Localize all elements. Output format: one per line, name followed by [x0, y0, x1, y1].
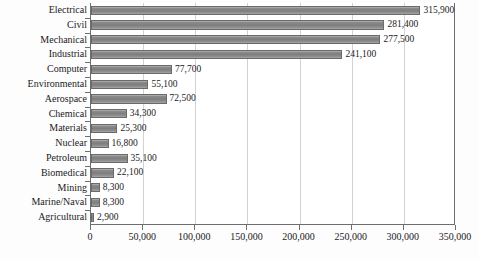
plot-area: 315,900281,400277,500241,10077,70055,100… [90, 3, 455, 225]
category-tick [85, 195, 90, 196]
value-tick [142, 225, 143, 230]
value-tick [455, 225, 456, 230]
category-label: Civil [0, 18, 87, 33]
bar [91, 168, 114, 177]
bar [91, 213, 94, 222]
value-tick [403, 225, 404, 230]
category-label: Marine/Naval [0, 195, 87, 210]
category-tick [85, 121, 90, 122]
bar-row: 55,100 [91, 77, 454, 92]
bar-row: 8,300 [91, 195, 454, 210]
category-label: Mining [0, 181, 87, 196]
bar-row: 241,100 [91, 47, 454, 62]
bar-value-label: 281,400 [387, 17, 418, 31]
category-label: Electrical [0, 3, 87, 18]
bar-value-label: 25,300 [120, 121, 146, 135]
bar-row: 25,300 [91, 121, 454, 136]
category-label: Mechanical [0, 33, 87, 48]
category-tick [85, 62, 90, 63]
category-label: Computer [0, 62, 87, 77]
category-label: Chemical [0, 107, 87, 122]
bar-value-label: 77,700 [175, 62, 201, 76]
bar [91, 20, 384, 29]
category-label: Biomedical [0, 166, 87, 181]
category-label: Aerospace [0, 92, 87, 107]
bar-row: 22,100 [91, 166, 454, 181]
bar-value-label: 22,100 [117, 165, 143, 179]
bar-chart: 315,900281,400277,500241,10077,70055,100… [0, 0, 478, 259]
bar-value-label: 8,300 [103, 195, 124, 209]
value-tick [351, 225, 352, 230]
category-tick [85, 166, 90, 167]
bar [91, 124, 117, 133]
category-label: Petroleum [0, 151, 87, 166]
category-tick [85, 47, 90, 48]
bar [91, 154, 128, 163]
bar [91, 50, 342, 59]
bar [91, 6, 420, 15]
category-label: Industrial [0, 47, 87, 62]
bar-value-label: 315,900 [423, 3, 454, 17]
bar-row: 281,400 [91, 18, 454, 33]
bar-value-label: 35,100 [131, 151, 157, 165]
category-tick [85, 136, 90, 137]
category-label: Environmental [0, 77, 87, 92]
value-tick [90, 225, 91, 230]
bar-value-label: 241,100 [345, 47, 376, 61]
category-tick [85, 151, 90, 152]
bar [91, 183, 100, 192]
category-label: Nuclear [0, 136, 87, 151]
category-tick [85, 210, 90, 211]
category-tick [85, 92, 90, 93]
category-tick [85, 18, 90, 19]
bar-value-label: 16,800 [112, 136, 138, 150]
category-tick [85, 107, 90, 108]
bar-value-label: 55,100 [151, 77, 177, 91]
value-tick-label: 350,000 [410, 231, 478, 242]
bar-value-label: 34,300 [130, 106, 156, 120]
bar [91, 198, 100, 207]
category-tick [85, 181, 90, 182]
bar-value-label: 8,300 [103, 180, 124, 194]
bar [91, 109, 127, 118]
bar [91, 94, 167, 103]
bar-row: 34,300 [91, 107, 454, 122]
bar [91, 65, 172, 74]
value-tick [299, 225, 300, 230]
value-tick [194, 225, 195, 230]
bar-row: 8,300 [91, 181, 454, 196]
bar-row: 2,900 [91, 210, 454, 225]
category-tick [85, 33, 90, 34]
bar-row: 277,500 [91, 33, 454, 48]
value-tick [246, 225, 247, 230]
category-tick [85, 77, 90, 78]
bar-rows: 315,900281,400277,500241,10077,70055,100… [91, 3, 454, 224]
bar-value-label: 72,500 [170, 91, 196, 105]
category-label: Materials [0, 121, 87, 136]
bar-value-label: 277,500 [383, 32, 414, 46]
bar-row: 72,500 [91, 92, 454, 107]
bar [91, 139, 109, 148]
bar [91, 80, 148, 89]
bar-row: 77,700 [91, 62, 454, 77]
bar [91, 35, 380, 44]
bar-row: 35,100 [91, 151, 454, 166]
category-label: Agricultural [0, 210, 87, 225]
bar-row: 16,800 [91, 136, 454, 151]
bar-value-label: 2,900 [97, 210, 118, 224]
bar-row: 315,900 [91, 3, 454, 18]
